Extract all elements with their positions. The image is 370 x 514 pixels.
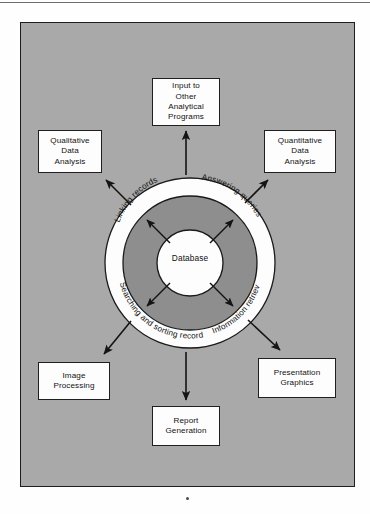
box-qualitative-data-analysis: Qualitative Data Analysis	[38, 130, 102, 173]
database-core-label: Database	[155, 253, 225, 263]
box-quantitative-data-analysis: Quantitative Data Analysis	[264, 130, 336, 173]
page-top-rule	[0, 2, 370, 3]
page-tick-mark	[277, 9, 281, 13]
page-bottom-dot	[186, 497, 189, 500]
figure-root: Linking records Answering queries Search…	[0, 0, 370, 514]
box-presentation-graphics: Presentation Graphics	[258, 358, 336, 398]
box-image-processing: Image Processing	[38, 362, 110, 400]
box-input-to-other: Input to Other Analytical Programs	[152, 78, 220, 126]
box-report-generation: Report Generation	[152, 406, 220, 446]
